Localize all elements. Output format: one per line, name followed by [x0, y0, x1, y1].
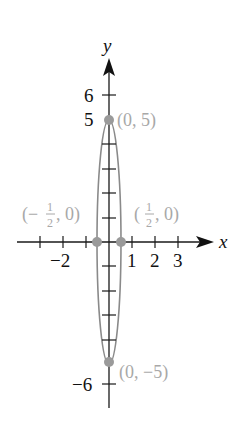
ellipse-graph: y x 6 5 −6 −2 1 2 3 (0, 5) (0, −5) (− 1 …	[0, 0, 241, 423]
svg-text:1: 1	[47, 200, 53, 214]
point-right	[116, 237, 126, 247]
point-top	[104, 115, 114, 125]
x-axis-label: x	[218, 231, 228, 252]
label-top-vertex: (0, 5)	[117, 110, 156, 131]
svg-text:(: (	[134, 204, 140, 225]
y-tick-5: 5	[84, 109, 94, 130]
label-right-covertex: ( 1 2 , 0)	[134, 200, 179, 230]
x-tick-3: 3	[173, 250, 183, 271]
svg-text:, 0): , 0)	[56, 204, 80, 225]
x-tick-2: 2	[150, 250, 160, 271]
svg-text:1: 1	[146, 200, 152, 214]
y-tick-6: 6	[84, 85, 94, 106]
x-tick-neg2: −2	[50, 250, 70, 271]
point-left	[92, 237, 102, 247]
svg-text:, 0): , 0)	[155, 204, 179, 225]
label-left-covertex: (− 1 2 , 0)	[22, 200, 80, 230]
svg-text:2: 2	[146, 216, 152, 230]
point-bottom	[104, 357, 114, 367]
x-tick-1: 1	[127, 250, 137, 271]
label-bottom-vertex: (0, −5)	[119, 362, 168, 383]
y-tick-neg6: −6	[72, 374, 92, 395]
y-axis-label: y	[101, 35, 112, 56]
svg-text:(−: (−	[22, 204, 38, 225]
svg-text:2: 2	[47, 216, 53, 230]
